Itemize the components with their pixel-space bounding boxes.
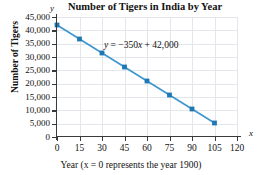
y-axis-tick-label: 25,000 — [0, 66, 50, 75]
y-axis-tick-label: 30,000 — [0, 53, 50, 62]
x-axis-tick — [192, 137, 193, 141]
y-axis-tick-label: 10,000 — [0, 106, 50, 115]
x-axis-letter: x — [249, 129, 253, 138]
data-point-marker — [122, 65, 127, 70]
y-axis-tick-label: 0 — [0, 133, 50, 142]
data-point-marker — [212, 121, 217, 126]
data-point-marker — [77, 37, 82, 42]
y-axis-tick-label: 5,000 — [0, 119, 50, 128]
gridline-vertical — [237, 17, 238, 137]
x-axis-title: Year (x = 0 represents the year 1900) — [21, 159, 241, 172]
y-axis-tick-label: 35,000 — [0, 39, 50, 48]
equation-lhs: y — [104, 40, 108, 50]
data-point-marker — [100, 51, 105, 56]
x-axis-tick — [125, 137, 126, 141]
y-axis-tick-label: 15,000 — [0, 93, 50, 102]
chart-figure: Number of Tigers in India by Year y x Nu… — [0, 0, 262, 175]
y-axis-tick — [52, 84, 56, 85]
x-axis-line — [56, 136, 241, 137]
y-axis-tick — [52, 124, 56, 125]
data-point-marker — [190, 107, 195, 112]
x-axis-tick — [215, 137, 216, 141]
equation-slope: −350 — [118, 40, 138, 50]
x-axis-tick — [80, 137, 81, 141]
x-axis-tick — [102, 137, 103, 141]
data-point-marker — [145, 79, 150, 84]
x-axis-tick — [57, 137, 58, 141]
x-axis-tick — [170, 137, 171, 141]
equation-equals: = — [111, 40, 116, 50]
x-axis-tick — [237, 137, 238, 141]
data-series — [57, 17, 237, 137]
y-axis-tick-label: 20,000 — [0, 79, 50, 88]
y-axis-tick — [52, 44, 56, 45]
y-axis-tick — [52, 70, 56, 71]
equation-intercept: 42,000 — [152, 40, 178, 50]
equation-plus: + — [145, 40, 150, 50]
x-axis-tick — [147, 137, 148, 141]
y-axis-tick — [52, 57, 56, 58]
y-axis-tick — [52, 30, 56, 31]
y-axis-tick-label: 40,000 — [0, 26, 50, 35]
chart-title: Number of Tigers in India by Year — [55, 0, 235, 14]
equation-variable: x — [138, 40, 142, 50]
y-axis-tick — [52, 137, 56, 138]
x-axis-title-text: Year (x = 0 represents the year 1900) — [61, 160, 202, 170]
y-axis-tick — [52, 110, 56, 111]
data-point-marker — [167, 93, 172, 98]
y-axis-tick — [52, 17, 56, 18]
plot-area — [57, 17, 237, 137]
equation-annotation: y = −350x + 42,000 — [104, 40, 178, 51]
y-axis-tick — [52, 97, 56, 98]
x-axis-tick-label: 120 — [222, 143, 252, 153]
y-axis-line — [56, 14, 57, 140]
y-axis-letter: y — [50, 4, 54, 13]
y-axis-tick-label: 45,000 — [0, 13, 50, 22]
